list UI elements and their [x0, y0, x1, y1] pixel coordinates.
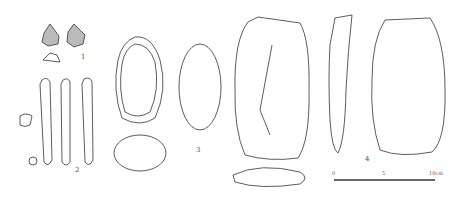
- scale-start: 0: [332, 170, 335, 176]
- item-2-drawing: [20, 78, 93, 165]
- lithic-drawings: [0, 0, 464, 202]
- item-4-drawing: [233, 15, 445, 187]
- item-3-drawing: [114, 37, 221, 171]
- item-1-drawing: [42, 24, 85, 62]
- item-3-label: 3: [196, 146, 200, 154]
- scale-end: 10cm: [429, 170, 443, 176]
- scale-mid: 5: [382, 170, 385, 176]
- item-1-label: 1: [81, 53, 85, 61]
- item-2-label: 2: [75, 166, 79, 174]
- item-4-label: 4: [365, 155, 369, 163]
